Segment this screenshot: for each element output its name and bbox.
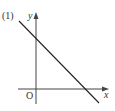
figure-label: (1) bbox=[2, 10, 14, 22]
x-axis-label: x bbox=[103, 89, 109, 100]
y-axis-label: y bbox=[27, 10, 33, 21]
y-axis-arrow-icon bbox=[34, 12, 39, 19]
origin-label: O bbox=[26, 90, 33, 101]
coordinate-diagram: (1) y O x bbox=[0, 0, 115, 111]
